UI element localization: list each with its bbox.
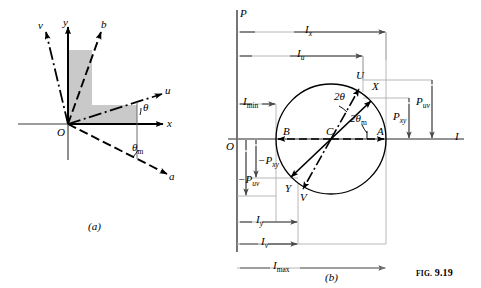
panel-b-graphics (228, 10, 464, 268)
figure-9-19: v y b u x a O θ θm (a) P I O C A B X Y U… (0, 0, 481, 288)
axis-label-b: b (101, 19, 107, 30)
dim-label-Puv: Puv (416, 96, 430, 110)
axis-label-v: v (38, 20, 43, 31)
dim-label-Iy: Iy (256, 214, 263, 228)
dimension-rails-lower (237, 244, 386, 268)
axis-label-u: u (165, 85, 171, 96)
v-axis-line (46, 32, 68, 124)
axis-label-x: x (167, 118, 172, 129)
dim-label-neg-Pxy: −Pxy (258, 155, 279, 169)
point-label-B: B (283, 126, 290, 137)
axis-label-P: P (240, 8, 247, 19)
figure-number: FIG. 9.19 (416, 267, 453, 278)
panel-a-caption: (a) (88, 220, 101, 232)
dim-label-Iu: Iu (297, 48, 304, 62)
panel-b-caption: (b) (325, 271, 338, 283)
angle-theta-m-label: θm (132, 142, 143, 156)
dim-label-Imax: Imax (273, 260, 290, 274)
point-label-C: C (326, 126, 333, 137)
XY-diameter-to-Y (291, 139, 331, 177)
angle-theta-label: θ (143, 102, 148, 113)
a-axis-line (68, 124, 167, 174)
dim-label-neg-Puv: −Puv (238, 174, 259, 188)
origin-label-a: O (57, 127, 65, 138)
axis-label-a: a (169, 171, 175, 182)
figure-number-prefix: FIG. (416, 269, 432, 278)
dimension-extension-lines (246, 32, 432, 244)
point-label-X: X (372, 81, 379, 92)
point-label-A: A (377, 126, 384, 137)
point-label-Y: Y (285, 183, 291, 194)
angle-2theta-m-label: 2θm (350, 113, 367, 127)
dim-label-Pxy: Pxy (393, 111, 406, 125)
angle-2theta-label: 2θ (334, 91, 345, 102)
dim-label-Iv: Iv (261, 236, 268, 250)
origin-label-b: O (226, 141, 234, 152)
angle-2theta-arc (339, 106, 347, 112)
figure-graphics (0, 0, 481, 288)
point-label-V: V (300, 192, 307, 203)
angle-section-shape (68, 50, 137, 124)
axis-label-I: I (455, 131, 459, 142)
dim-label-Ix: Ix (305, 24, 312, 38)
UV-diameter-to-V (303, 139, 331, 189)
theta-arc (140, 108, 141, 115)
axis-label-y: y (63, 17, 68, 28)
dimension-rails (237, 32, 432, 244)
figure-number-value: 9.19 (435, 267, 453, 278)
point-label-U: U (356, 70, 364, 81)
dim-label-Imin: Imin (243, 96, 258, 110)
